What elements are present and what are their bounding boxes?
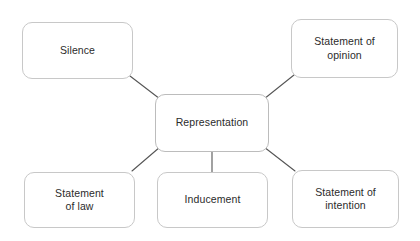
node-silence[interactable]: Silence (22, 22, 133, 79)
connector-central-to-statement-of-law (132, 147, 160, 171)
node-inducement[interactable]: Inducement (157, 172, 268, 228)
node-statement-of-opinion-label: Statement of opinion (310, 35, 379, 62)
connector-central-to-statement-of-opinion (264, 75, 294, 99)
connector-central-to-statement-of-intention (264, 147, 295, 171)
node-representation-label: Representation (172, 116, 253, 130)
connector-central-to-silence (130, 76, 160, 99)
node-statement-of-intention-label: Statement of intention (311, 186, 380, 213)
node-representation[interactable]: Representation (155, 94, 269, 152)
node-statement-of-law-label: Statement of law (51, 187, 108, 214)
diagram-canvas: Representation Silence Statement of opin… (0, 0, 420, 241)
node-statement-of-intention[interactable]: Statement of intention (292, 170, 399, 228)
node-statement-of-law[interactable]: Statement of law (24, 172, 135, 228)
node-inducement-label: Inducement (181, 193, 245, 207)
node-silence-label: Silence (56, 44, 99, 58)
node-statement-of-opinion[interactable]: Statement of opinion (291, 19, 398, 78)
